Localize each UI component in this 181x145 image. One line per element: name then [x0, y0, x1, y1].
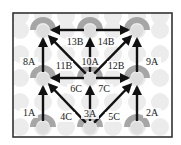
edge-label-6c: 6C [70, 83, 82, 94]
node-center [37, 73, 50, 86]
edge-label-8a: 8A [23, 56, 36, 67]
edge-label-10a: 10A [81, 56, 99, 67]
edge-label-14b: 14B [98, 36, 115, 47]
node-center [131, 25, 144, 38]
node-center [37, 25, 50, 38]
edge-label-11b: 11B [56, 60, 73, 71]
edge-label-12b: 12B [108, 60, 125, 71]
node-center [131, 73, 144, 86]
edge-label-9a: 9A [146, 56, 159, 67]
background-dot [151, 118, 169, 136]
graph-diagram: 1A2A3A4C5C6C7C8A9A10A11B12B13B14B [0, 0, 181, 145]
edge-label-1a: 1A [23, 107, 36, 118]
edge-label-13b: 13B [67, 36, 84, 47]
edge-label-7c: 7C [98, 83, 110, 94]
background-dot [151, 21, 169, 39]
node-center [84, 25, 97, 38]
node-center [37, 122, 50, 135]
background-dot [151, 69, 169, 87]
node-center [84, 122, 97, 135]
edge-label-5c: 5C [108, 111, 120, 122]
edge-label-3a: 3A [84, 108, 97, 119]
edge-label-2a: 2A [146, 107, 159, 118]
node-center [131, 122, 144, 135]
edge-label-4c: 4C [60, 111, 72, 122]
node-center [84, 73, 97, 86]
